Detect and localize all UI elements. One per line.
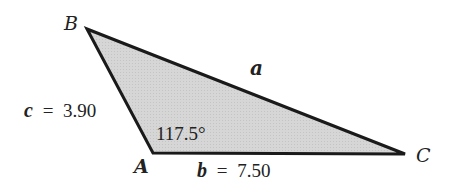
side-c-measure: c = 3.90 [24, 100, 96, 120]
side-b-value: 7.50 [237, 160, 270, 181]
side-label-b: b [197, 159, 207, 181]
triangle-abc [87, 29, 405, 154]
equals-sign: = [217, 160, 228, 181]
side-c-value: 3.90 [63, 100, 96, 121]
side-label-c: c [24, 99, 33, 121]
side-label-a: a [250, 58, 263, 78]
side-b-measure: b = 7.50 [197, 160, 270, 180]
equals-sign: = [43, 100, 54, 121]
angle-a-value: 117.5° [156, 124, 206, 143]
vertex-label-c: C [416, 146, 431, 165]
vertex-label-a: A [134, 157, 149, 176]
vertex-label-b: B [64, 14, 78, 33]
